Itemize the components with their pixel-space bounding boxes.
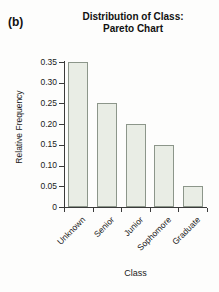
y-tick-label: 0 [20, 203, 57, 212]
y-axis-line [64, 61, 65, 208]
chart-title-line-2: Pareto Chart [58, 23, 208, 35]
y-tick-label-wrap: 0.20 [20, 120, 57, 129]
y-tick-label-wrap: 0.10 [20, 161, 57, 170]
y-tick-label: 0.35 [20, 58, 57, 67]
bar [154, 145, 174, 207]
y-tick-label-wrap: 0.35 [20, 58, 57, 67]
y-tick-label: 0.20 [20, 120, 57, 129]
chart-title: Distribution of Class: Pareto Chart [58, 11, 208, 35]
y-tick-mark [59, 124, 64, 125]
bar [68, 62, 88, 207]
chart-title-line-1: Distribution of Class: [58, 11, 208, 23]
x-axis-line [64, 207, 207, 208]
x-tick-mark [121, 208, 122, 212]
y-tick-label: 0.05 [20, 182, 57, 191]
y-tick-label: 0.15 [20, 140, 57, 149]
y-tick-mark [59, 103, 64, 104]
y-tick-mark [59, 166, 64, 167]
bar [126, 124, 146, 207]
y-tick-mark [59, 186, 64, 187]
bar [183, 186, 203, 207]
y-tick-label-wrap: 0.05 [20, 182, 57, 191]
panel-label: (b) [8, 15, 23, 29]
x-tick-mark [207, 208, 208, 212]
x-tick-mark [64, 208, 65, 212]
y-tick-mark [59, 62, 64, 63]
figure-panel: (b) Distribution of Class: Pareto Chart … [0, 0, 219, 292]
bar [97, 103, 117, 207]
y-tick-label: 0.30 [20, 78, 57, 87]
y-tick-mark [59, 145, 64, 146]
y-tick-label-wrap: 0.25 [20, 99, 57, 108]
x-tick-mark [178, 208, 179, 212]
x-axis-title: Class [64, 268, 207, 278]
y-tick-label-wrap: 0 [20, 203, 57, 212]
y-tick-label-wrap: 0.30 [20, 78, 57, 87]
y-tick-mark [59, 83, 64, 84]
y-tick-label: 0.10 [20, 161, 57, 170]
x-tick-mark [150, 208, 151, 212]
y-tick-label: 0.25 [20, 99, 57, 108]
x-tick-mark [93, 208, 94, 212]
y-tick-label-wrap: 0.15 [20, 140, 57, 149]
